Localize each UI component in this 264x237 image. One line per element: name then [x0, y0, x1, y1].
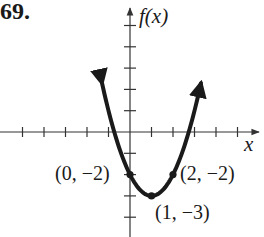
data-point — [126, 171, 133, 178]
point-label-0-neg2: (0, −2) — [55, 162, 110, 185]
problem-number: 69. — [0, 0, 30, 25]
data-point — [169, 171, 176, 178]
point-label-2-neg2: (2, −2) — [180, 162, 235, 185]
x-axis-label: x — [244, 132, 253, 157]
graph-canvas — [0, 0, 264, 237]
y-axis-label: f(x) — [139, 4, 168, 29]
y-axis — [124, 8, 136, 237]
data-point — [148, 192, 155, 199]
point-label-1-neg3: (1, −3) — [155, 201, 210, 224]
